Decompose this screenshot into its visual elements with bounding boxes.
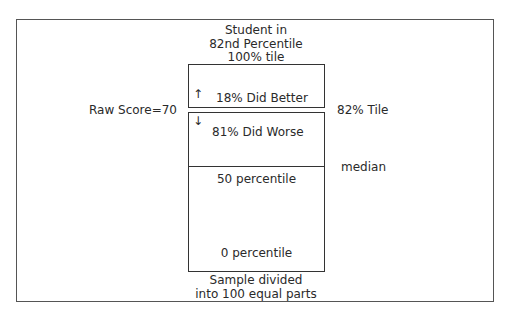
footer-line1: Sample divided bbox=[176, 273, 336, 288]
raw-score-label: Raw Score=70 bbox=[89, 103, 177, 118]
fifty-percentile-label: 50 percentile bbox=[188, 172, 325, 187]
percentile-tile-label: 82% Tile bbox=[337, 103, 389, 118]
did-worse-label: 81% Did Worse bbox=[212, 125, 304, 140]
top-percentile-label: 100% tile bbox=[186, 50, 326, 65]
median-label: median bbox=[341, 160, 386, 175]
zero-percentile-label: 0 percentile bbox=[188, 246, 325, 261]
median-line bbox=[188, 166, 325, 167]
header-line1: Student in bbox=[186, 23, 326, 38]
up-arrow-icon: ↑ bbox=[193, 88, 203, 100]
down-arrow-icon: ↓ bbox=[193, 115, 203, 127]
did-better-label: 18% Did Better bbox=[216, 91, 308, 106]
footer-line2: into 100 equal parts bbox=[176, 287, 336, 302]
